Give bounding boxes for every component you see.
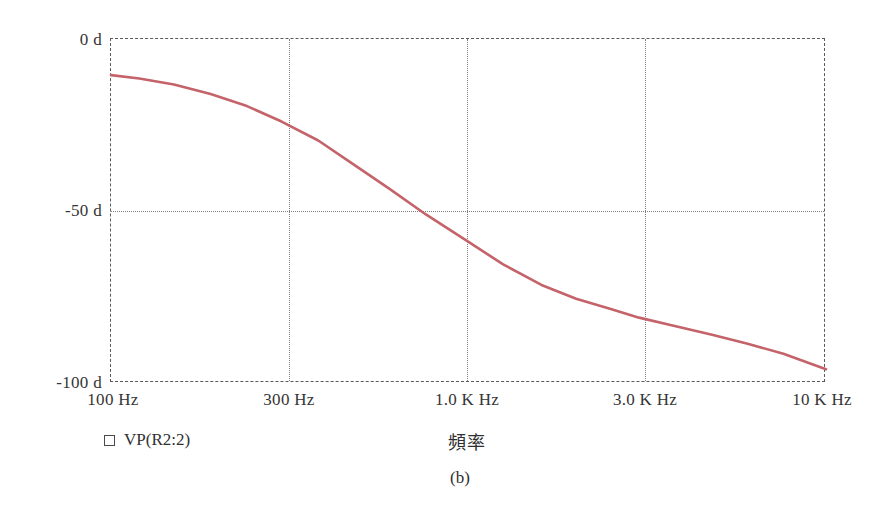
legend: VP(R2:2) — [104, 430, 190, 450]
x-tick-1khz: 1.0 K Hz — [435, 390, 499, 410]
x-tick-10khz: 10 K Hz — [792, 390, 852, 410]
x-tick-100hz: 100 Hz — [87, 390, 138, 410]
bode-magnitude-figure: 0 d -50 d -100 d 100 Hz 300 Hz 1.0 K Hz … — [0, 0, 877, 509]
legend-square-icon — [104, 435, 115, 446]
x-axis-title: 頻率 — [448, 428, 486, 454]
legend-label: VP(R2:2) — [124, 430, 190, 450]
y-tick-50: -50 d — [65, 201, 102, 221]
x-tick-300hz: 300 Hz — [263, 390, 314, 410]
y-tick-0: 0 d — [80, 30, 102, 50]
response-curve-vp-r2-2 — [111, 75, 826, 369]
figure-caption: (b) — [450, 468, 470, 488]
x-tick-3khz: 3.0 K Hz — [613, 390, 677, 410]
response-curve-svg — [111, 39, 826, 383]
plot-area — [110, 38, 825, 382]
y-axis-tick-labels: 0 d -50 d -100 d — [0, 0, 102, 509]
